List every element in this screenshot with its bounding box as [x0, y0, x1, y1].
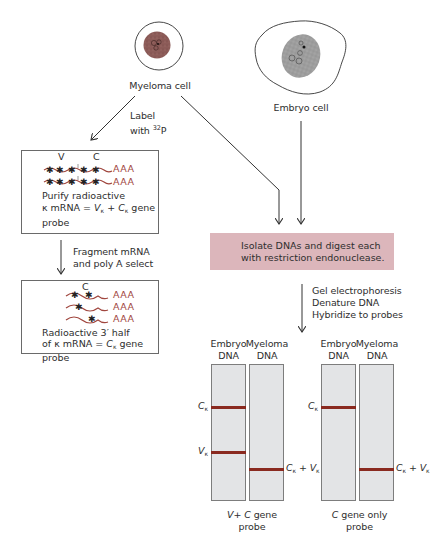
svg-text:✱: ✱ [88, 314, 96, 324]
svg-text:✱: ✱ [56, 177, 64, 187]
band-v-kappa [211, 451, 246, 454]
band-c-plus-v-kappa [249, 468, 284, 471]
lane-header-myeloma: Myeloma DNA [243, 338, 291, 362]
svg-text:✱: ✱ [68, 165, 76, 175]
band-label-c-kappa: Cκ [308, 400, 318, 415]
label-step-text: Label with 32P [130, 110, 166, 137]
full-probe-description: Purify radioactive κ mRNA = Vκ + Cκ gene… [42, 190, 155, 229]
poly-a-tail: AAA [113, 301, 135, 312]
poly-a-tail: AAA [113, 289, 135, 300]
poly-a-tail: AAA [113, 163, 135, 174]
gel-lane-embryo [321, 364, 356, 501]
svg-text:✱: ✱ [92, 165, 100, 175]
svg-text:✱: ✱ [56, 165, 64, 175]
svg-text:✱: ✱ [80, 177, 88, 187]
isolate-dna-box: Isolate DNAs and digest each with restri… [210, 233, 394, 270]
gel-lane-myeloma [359, 364, 394, 501]
band-c-kappa [321, 406, 356, 409]
poly-a-tail: AAA [113, 176, 135, 187]
svg-text:✱: ✱ [80, 165, 88, 175]
mrna-v-c-icon: ✱✱✱✱✱ ✱✱✱✱✱ [22, 151, 160, 191]
fragment-step-text: Fragment mRNA and poly A select [73, 246, 153, 270]
isolate-line-2: with restriction endonuclease. [241, 252, 384, 264]
embryo-cell-icon [255, 21, 346, 94]
gel-caption-c-only: C gene only probe [322, 509, 397, 533]
gel-lane-embryo [211, 364, 246, 501]
gel-lane-myeloma [249, 364, 284, 501]
segment-label-c: C [82, 281, 89, 293]
embryo-cell-label: Embryo cell [266, 102, 336, 114]
svg-text:✱: ✱ [75, 302, 83, 312]
band-label-v-kappa: Vκ [198, 445, 208, 460]
band-label-c-plus-v: Cκ + Vκ [286, 462, 320, 477]
svg-text:✱: ✱ [71, 290, 79, 300]
band-c-kappa [211, 406, 246, 409]
band-label-c-kappa: Cκ [198, 400, 208, 415]
arrow-myeloma-to-probe [91, 96, 135, 140]
svg-text:✱: ✱ [46, 165, 54, 175]
band-label-c-plus-v: Cκ + Vκ [396, 462, 430, 477]
svg-text:✱: ✱ [68, 177, 76, 187]
c-probe-description: Radioactive 3′ half of κ mRNA = Cκ gene … [42, 327, 143, 363]
mrna-c-fragments-icon: ✱✱ ✱ ✱ [22, 281, 160, 326]
poly-a-tail: AAA [113, 313, 135, 324]
c-probe-box: ✱✱ ✱ ✱ C AAA AAA AAA Radioactive 3′ half… [21, 280, 159, 354]
band-c-plus-v-kappa [359, 468, 394, 471]
svg-text:✱: ✱ [92, 177, 100, 187]
antibody-gene-rearrangement-diagram: Myeloma cell Embryo cell Label with 32P … [0, 0, 442, 547]
isolate-line-1: Isolate DNAs and digest each [241, 240, 384, 252]
full-probe-box: ✱✱✱✱✱ ✱✱✱✱✱ V C AAA AAA Purify radioacti… [21, 150, 159, 234]
svg-text:✱: ✱ [46, 177, 54, 187]
segment-label-c: C [93, 151, 100, 163]
arrow-myeloma-to-isolate [181, 96, 279, 224]
gel-caption-v-plus-c: V+ C gene probe [217, 509, 287, 533]
gel-step-text: Gel electrophoresis Denature DNA Hybridi… [312, 285, 403, 321]
segment-label-v: V [58, 151, 65, 163]
lane-header-myeloma: Myeloma DNA [353, 338, 401, 362]
myeloma-cell-icon [135, 22, 183, 70]
myeloma-cell-label: Myeloma cell [125, 80, 195, 92]
